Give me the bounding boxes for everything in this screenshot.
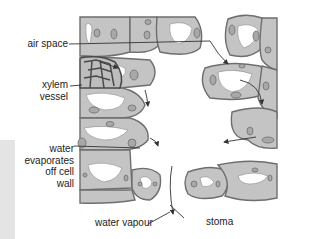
label-xylem-line1: xylem [8, 79, 68, 91]
label-water-line4: wall [8, 178, 74, 190]
leaf-cross-section-diagram [0, 0, 314, 239]
label-water-line1: water [8, 143, 74, 155]
label-xylem-vessel: xylem vessel [8, 79, 68, 102]
label-water-line2: evaporates [8, 155, 74, 167]
label-water-vapour: water vapour [95, 217, 153, 229]
label-water-evaporates: water evaporates off cell wall [8, 143, 74, 189]
label-water-line3: off cell [8, 166, 74, 178]
label-xylem-line2: vessel [8, 91, 68, 103]
label-air-space: air space [8, 38, 68, 50]
label-stoma: stoma [206, 216, 233, 228]
